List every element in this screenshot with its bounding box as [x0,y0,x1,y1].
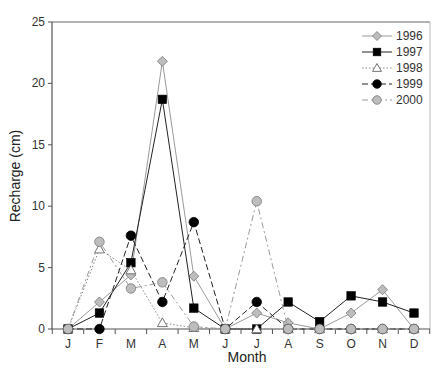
legend-label: 1997 [396,45,423,59]
circle-marker [409,324,419,334]
x-tick-label: A [284,337,292,351]
series-line [68,249,414,329]
series-line [68,61,414,329]
legend-item-1997: 1997 [362,45,423,59]
x-tick-label: O [346,337,355,351]
diamond-marker [252,308,262,318]
circle-marker [346,324,356,334]
x-axis-title: Month [228,349,267,365]
y-tick-label: 20 [32,76,46,90]
y-tick-label: 0 [38,322,45,336]
legend-label: 2000 [396,93,423,107]
x-tick-label: M [189,337,199,351]
legend: 19961997199819992000 [362,29,423,107]
legend-item-2000: 2000 [362,93,423,107]
square-marker [378,298,387,307]
series-1996 [63,56,419,334]
circle-marker [95,237,105,247]
x-tick-label: D [410,337,419,351]
series-1998 [63,244,419,333]
circle-marker [95,324,105,334]
series-1999 [63,217,419,333]
circle-marker [63,324,73,334]
y-tick-label: 5 [38,261,45,275]
series-2000 [63,197,419,334]
circle-marker [158,297,168,307]
series-line [68,201,414,329]
legend-item-1999: 1999 [362,77,423,91]
x-tick-label: M [126,337,136,351]
legend-label: 1999 [396,77,423,91]
circle-marker [252,297,262,307]
y-axis-title: Recharge (cm) [7,130,23,223]
y-tick-label: 10 [32,199,46,213]
circle-marker [283,324,293,334]
x-tick-label: S [316,337,324,351]
legend-item-1998: 1998 [362,61,423,75]
series-1997 [64,95,419,333]
circle-marker [158,278,168,288]
circle-marker [378,324,388,334]
series-line [68,99,414,329]
square-marker [410,309,419,318]
x-tick-label: F [96,337,103,351]
legend-item-1996: 1996 [362,29,423,43]
square-marker [190,304,199,313]
circle-marker [373,80,382,89]
diamond-marker [378,285,388,295]
series-line [68,222,414,329]
legend-label: 1996 [396,29,423,43]
diamond-marker [157,56,167,66]
legend-label: 1998 [396,61,423,75]
y-tick-label: 15 [32,138,46,152]
triangle-marker [373,64,382,72]
triangle-marker [157,318,167,327]
circle-marker [315,324,325,334]
circle-marker [126,284,136,294]
diamond-marker [189,271,199,281]
square-marker [158,95,167,104]
circle-marker [252,197,262,207]
x-tick-label: A [158,337,166,351]
circle-marker [189,217,199,227]
circle-marker [373,96,382,105]
square-marker [284,298,293,307]
recharge-line-chart: 0510152025JFMAMJJASOND 19961997199819992… [0,0,442,379]
square-marker [95,309,104,318]
circle-marker [221,324,231,334]
square-marker [347,292,356,301]
x-tick-label: N [378,337,387,351]
diamond-marker [346,308,356,318]
circle-marker [126,231,136,241]
circle-marker [189,322,199,332]
x-tick-label: J [65,337,71,351]
series-layer [63,56,419,334]
y-tick-label: 25 [32,15,46,29]
plot-area: 0510152025JFMAMJJASOND [32,15,430,351]
square-marker [373,48,381,56]
diamond-marker [373,32,382,41]
